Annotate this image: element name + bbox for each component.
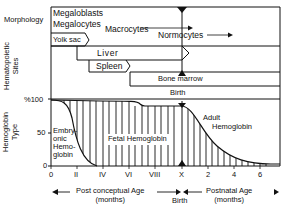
x-tick-6: 6 bbox=[258, 171, 262, 179]
x-tick-0: 0 bbox=[49, 171, 53, 179]
label-fetal-hemoglobin: Fetal Hemoglobin bbox=[108, 135, 167, 143]
label-bone-marrow: Bone marrow bbox=[158, 75, 203, 83]
x-tick-X: X bbox=[179, 171, 184, 179]
label-liver: Liver bbox=[97, 49, 118, 58]
x-tick-4: 4 bbox=[232, 171, 236, 179]
label-megaloblasts: Megaloblasts bbox=[53, 9, 103, 18]
y-tick-50: 50 bbox=[37, 129, 45, 137]
label-yolk-sac: Yolk sac bbox=[53, 36, 81, 44]
label-normocytes: Normocytes bbox=[158, 31, 203, 40]
y-tick-0: 0 bbox=[43, 162, 47, 170]
label-embryonic-hemoglobin: Embry- onic Hemo- globin bbox=[53, 127, 77, 159]
caption-birth: Birth bbox=[172, 197, 187, 205]
row-label-hemoglobin-type: Hemoglobin Type bbox=[2, 105, 22, 159]
x-tick-VIII: VIII bbox=[149, 171, 160, 179]
x-tick-IV: IV bbox=[99, 171, 106, 179]
row-label-hematopoietic-sites: Hematopoietic Sites bbox=[3, 36, 23, 96]
x-tick-VI: VI bbox=[125, 171, 132, 179]
caption-postnatal-age: Postnatal Age (months) bbox=[206, 187, 252, 204]
caption-post-conceptual-age: Post conceptual Age (months) bbox=[76, 187, 144, 204]
x-tick-II: II bbox=[74, 171, 78, 179]
label-adult-hemoglobin: Adult Hemoglobin bbox=[203, 113, 252, 131]
x-tick-2: 2 bbox=[206, 171, 210, 179]
label-birth-band: Birth bbox=[170, 89, 185, 97]
y-tick-100: %100 bbox=[24, 96, 43, 104]
label-macrocytes: Macrocytes bbox=[105, 25, 148, 34]
label-megalocytes: Megalocytes bbox=[53, 20, 101, 29]
label-spleen: Spleen bbox=[96, 62, 122, 71]
row-label-morphology: Morphology bbox=[4, 16, 43, 24]
